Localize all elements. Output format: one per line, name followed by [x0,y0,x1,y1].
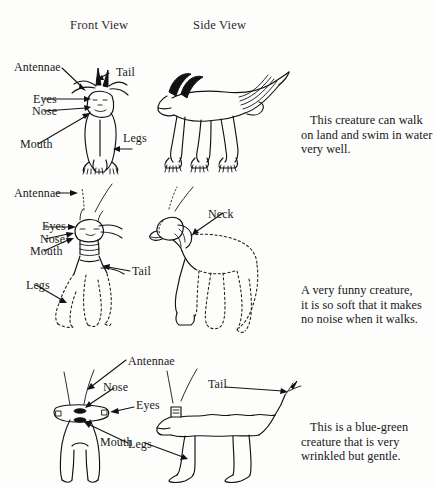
creature-1-desc-line-3: very well. [301,142,433,157]
creature-2-description: A very funny creature, it is so soft tha… [301,283,433,327]
creature-2-label-legs: Legs [26,279,50,292]
creature-1-label-mouth: Mouth [20,138,53,151]
worksheet-page: Front View Side View [0,0,435,489]
creature-3-description: This is a blue-green creature that is ve… [301,420,433,464]
creature-1-label-legs: Legs [123,132,147,145]
creature-3-side-leaders [155,365,305,485]
creature-2-label-mouth: Mouth [30,245,63,258]
creature-1-side-drawing [155,58,295,178]
creature-2-desc-line-1: A very funny creature, [301,283,433,298]
column-header-front-view: Front View [70,18,128,33]
creature-3-desc-line-3: wrinkled but gentle. [301,449,433,464]
creature-3-desc-line-1: This is a blue-green [301,420,433,435]
creature-1-desc-line-2: on land and swim in water [301,128,433,143]
creature-3-label-legs: Legs [128,438,152,451]
creature-1-label-nose: Nose [32,105,57,118]
creature-2-label-neck: Neck [208,208,234,221]
creature-2-desc-line-2: it is so soft that it makes [301,298,433,313]
creature-1-description: This creature can walk on land and swim … [301,113,433,157]
creature-2-label-antennae: Antennae [14,187,61,200]
creature-2-desc-line-3: no noise when it walks. [301,312,433,327]
creature-3-label-tail: Tail [208,378,227,391]
creature-3-label-nose: Nose [103,381,128,394]
creature-1-label-tail: Tail [116,66,135,79]
creature-3-desc-line-2: creature that is very [301,435,433,450]
creature-1-desc-line-1: This creature can walk [301,113,433,128]
column-header-side-view: Side View [193,18,246,33]
creature-1-label-antennae: Antennae [14,61,61,74]
